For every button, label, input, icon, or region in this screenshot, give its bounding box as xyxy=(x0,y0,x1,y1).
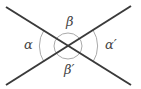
alpha-arc xyxy=(39,30,44,62)
vertical-angles-diagram: α β α′ β′ xyxy=(0,0,141,89)
alpha-prime-label: α′ xyxy=(105,38,117,51)
alpha-label: α xyxy=(24,38,33,51)
beta-label: β xyxy=(66,15,74,28)
alpha-prime-arc xyxy=(93,30,98,62)
beta-prime-label: β′ xyxy=(64,63,74,76)
